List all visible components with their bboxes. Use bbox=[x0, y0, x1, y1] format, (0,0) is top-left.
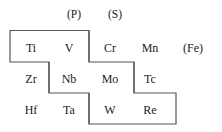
element-label-mo: Mo bbox=[102, 72, 119, 86]
group-header-p-label: (P) bbox=[67, 8, 81, 20]
element-label-v: V bbox=[65, 41, 74, 55]
element-label-zr: Zr bbox=[25, 72, 36, 86]
element-label-nb: Nb bbox=[62, 72, 77, 86]
element-label-fe: (Fe) bbox=[183, 41, 203, 55]
element-label-ta: Ta bbox=[63, 103, 75, 117]
group-header-s: (S) bbox=[103, 8, 127, 21]
element-cell-w: W bbox=[93, 103, 127, 117]
element-cell-nb: Nb bbox=[52, 72, 86, 86]
group-header-p: (P) bbox=[62, 8, 86, 21]
element-label-re: Re bbox=[143, 103, 156, 117]
element-label-tc: Tc bbox=[144, 72, 156, 86]
element-cell-re: Re bbox=[133, 103, 167, 117]
element-cell-cr: Cr bbox=[93, 41, 127, 55]
element-cell-hf: Hf bbox=[14, 103, 48, 117]
element-label-hf: Hf bbox=[25, 103, 38, 117]
periodic-table-fragment-figure: (P) (S) Ti V Cr Mn (Fe) Zr Nb Mo Tc Hf T… bbox=[0, 0, 222, 132]
element-cell-zr: Zr bbox=[14, 72, 48, 86]
element-cell-mn: Mn bbox=[133, 41, 167, 55]
element-cell-fe: (Fe) bbox=[176, 41, 210, 55]
element-label-mn: Mn bbox=[142, 41, 159, 55]
element-cell-v: V bbox=[52, 41, 86, 55]
element-cell-ti: Ti bbox=[14, 41, 48, 55]
element-cell-mo: Mo bbox=[93, 72, 127, 86]
element-cell-ta: Ta bbox=[52, 103, 86, 117]
element-label-cr: Cr bbox=[104, 41, 116, 55]
group-header-s-label: (S) bbox=[108, 8, 122, 20]
element-label-w: W bbox=[104, 103, 115, 117]
element-label-ti: Ti bbox=[26, 41, 36, 55]
element-cell-tc: Tc bbox=[133, 72, 167, 86]
